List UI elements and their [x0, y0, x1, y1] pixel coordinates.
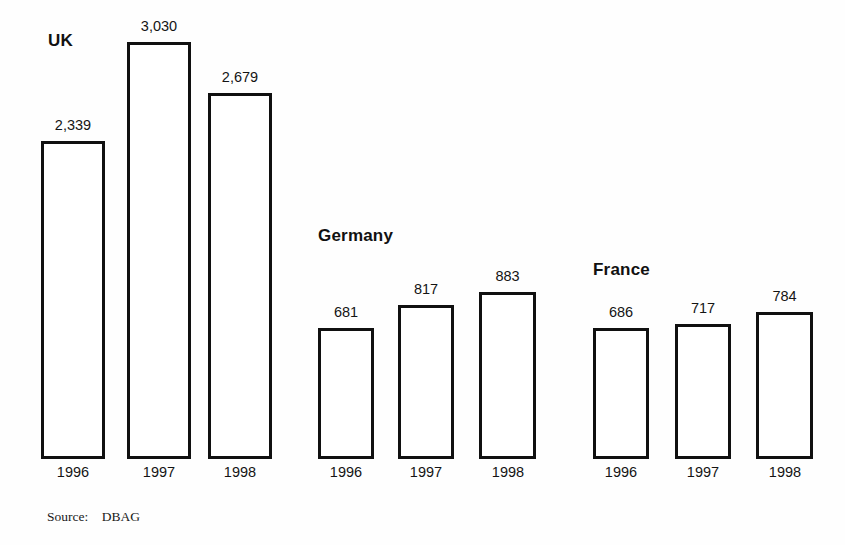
bar-year-uk-1997: 1997 [127, 464, 191, 480]
bar-value-uk-1997: 3,030 [127, 18, 191, 34]
bar-value-uk-1998: 2,679 [208, 69, 272, 85]
bar-value-germany-1998: 883 [479, 268, 536, 284]
bar-year-uk-1998: 1998 [208, 464, 272, 480]
bar-value-germany-1996: 681 [318, 304, 374, 320]
bar-year-france-1996: 1996 [589, 464, 653, 480]
bar-value-france-1998: 784 [756, 288, 813, 304]
bar-year-france-1998: 1998 [753, 464, 817, 480]
bar-uk-1996 [41, 141, 105, 459]
bar-value-uk-1996: 2,339 [41, 117, 105, 133]
bar-value-france-1997: 717 [675, 300, 731, 316]
bar-value-germany-1997: 817 [398, 281, 454, 297]
bar-year-germany-1998: 1998 [476, 464, 540, 480]
panel-title-france: France [593, 260, 650, 280]
bar-uk-1998 [208, 93, 272, 459]
bar-france-1996 [593, 328, 649, 459]
bar-germany-1996 [318, 328, 374, 459]
bar-france-1998 [756, 312, 813, 459]
bar-france-1997 [675, 324, 731, 459]
panel-title-uk: UK [48, 31, 73, 51]
bar-value-france-1996: 686 [593, 304, 649, 320]
bar-year-france-1997: 1997 [671, 464, 735, 480]
bar-year-uk-1996: 1996 [41, 464, 105, 480]
bar-uk-1997 [127, 42, 191, 459]
panel-title-germany: Germany [318, 226, 393, 246]
bar-germany-1997 [398, 305, 454, 459]
source-note: Source: DBAG [47, 509, 140, 525]
bar-germany-1998 [479, 292, 536, 459]
chart-canvas: UK 2,339 1996 3,030 1997 2,679 1998 Germ… [0, 0, 845, 545]
bar-year-germany-1996: 1996 [314, 464, 378, 480]
bar-year-germany-1997: 1997 [394, 464, 458, 480]
